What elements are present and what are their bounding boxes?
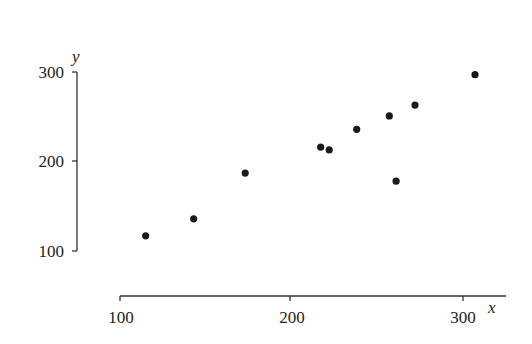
y-tick-100: 100 bbox=[39, 242, 65, 261]
y-axis-label: y bbox=[70, 47, 80, 66]
y-tick-300: 300 bbox=[39, 63, 65, 82]
data-point bbox=[242, 170, 249, 177]
scatter-plot: 300 200 100 y 100 200 300 x bbox=[0, 0, 532, 344]
x-tick-200: 200 bbox=[279, 308, 305, 327]
data-point bbox=[411, 102, 418, 109]
data-point bbox=[190, 215, 197, 222]
data-point bbox=[386, 112, 393, 119]
data-point bbox=[142, 232, 149, 239]
y-axis: 300 200 100 y bbox=[39, 47, 81, 261]
data-point bbox=[393, 178, 400, 185]
data-points bbox=[142, 71, 479, 239]
data-point bbox=[471, 71, 478, 78]
x-tick-300: 300 bbox=[450, 308, 476, 327]
x-tick-100: 100 bbox=[108, 308, 134, 327]
data-point bbox=[326, 146, 333, 153]
x-axis: 100 200 300 x bbox=[108, 296, 506, 327]
data-point bbox=[317, 144, 324, 151]
y-tick-200: 200 bbox=[39, 152, 65, 171]
data-point bbox=[353, 126, 360, 133]
x-axis-label: x bbox=[487, 298, 496, 317]
